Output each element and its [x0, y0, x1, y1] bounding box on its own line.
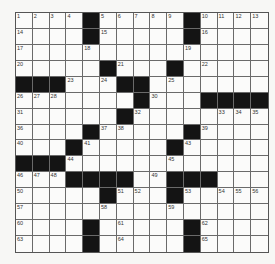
grid-cell[interactable]: [117, 156, 134, 172]
grid-cell[interactable]: [50, 125, 67, 141]
grid-cell[interactable]: [234, 77, 251, 93]
grid-cell[interactable]: [218, 172, 235, 188]
grid-cell[interactable]: 12: [234, 13, 251, 29]
grid-cell[interactable]: 54: [218, 188, 235, 204]
grid-cell[interactable]: [83, 109, 100, 125]
grid-cell[interactable]: 21: [117, 61, 134, 77]
grid-cell[interactable]: [33, 140, 50, 156]
grid-cell[interactable]: [33, 236, 50, 252]
grid-cell[interactable]: 20: [16, 61, 33, 77]
grid-cell[interactable]: [150, 188, 167, 204]
grid-cell[interactable]: [184, 77, 201, 93]
grid-cell[interactable]: [50, 236, 67, 252]
grid-cell[interactable]: 59: [167, 204, 184, 220]
grid-cell[interactable]: [117, 45, 134, 61]
grid-cell[interactable]: 46: [16, 172, 33, 188]
grid-cell[interactable]: [50, 204, 67, 220]
grid-cell[interactable]: [150, 125, 167, 141]
grid-cell[interactable]: [201, 77, 218, 93]
grid-cell[interactable]: [167, 125, 184, 141]
grid-cell[interactable]: 1: [16, 13, 33, 29]
grid-cell[interactable]: [66, 236, 83, 252]
grid-cell[interactable]: 65: [201, 236, 218, 252]
grid-cell[interactable]: [150, 156, 167, 172]
grid-cell[interactable]: 62: [201, 220, 218, 236]
grid-cell[interactable]: [218, 156, 235, 172]
grid-cell[interactable]: 36: [16, 125, 33, 141]
grid-cell[interactable]: [33, 29, 50, 45]
grid-cell[interactable]: 6: [117, 13, 134, 29]
grid-cell[interactable]: [134, 172, 151, 188]
grid-cell[interactable]: [134, 45, 151, 61]
grid-cell[interactable]: 49: [150, 172, 167, 188]
grid-cell[interactable]: [234, 45, 251, 61]
grid-cell[interactable]: [134, 204, 151, 220]
grid-cell[interactable]: [134, 140, 151, 156]
grid-cell[interactable]: [66, 93, 83, 109]
grid-cell[interactable]: [184, 109, 201, 125]
grid-cell[interactable]: 38: [117, 125, 134, 141]
grid-cell[interactable]: 40: [16, 140, 33, 156]
grid-cell[interactable]: 35: [251, 109, 268, 125]
grid-cell[interactable]: 64: [117, 236, 134, 252]
grid-cell[interactable]: [66, 188, 83, 204]
grid-cell[interactable]: [167, 220, 184, 236]
grid-cell[interactable]: [66, 61, 83, 77]
grid-cell[interactable]: 50: [16, 188, 33, 204]
grid-cell[interactable]: [134, 220, 151, 236]
grid-cell[interactable]: [83, 93, 100, 109]
grid-cell[interactable]: 60: [16, 220, 33, 236]
grid-cell[interactable]: 7: [134, 13, 151, 29]
grid-cell[interactable]: 22: [201, 61, 218, 77]
grid-cell[interactable]: 43: [184, 140, 201, 156]
grid-cell[interactable]: [251, 204, 268, 220]
grid-cell[interactable]: [83, 77, 100, 93]
grid-cell[interactable]: [50, 140, 67, 156]
grid-cell[interactable]: 55: [234, 188, 251, 204]
grid-cell[interactable]: [33, 188, 50, 204]
grid-cell[interactable]: [218, 220, 235, 236]
grid-cell[interactable]: [50, 220, 67, 236]
grid-cell[interactable]: 56: [251, 188, 268, 204]
grid-cell[interactable]: [66, 109, 83, 125]
grid-cell[interactable]: 34: [234, 109, 251, 125]
grid-cell[interactable]: [201, 140, 218, 156]
grid-cell[interactable]: 37: [100, 125, 117, 141]
grid-cell[interactable]: [167, 93, 184, 109]
grid-cell[interactable]: 13: [251, 13, 268, 29]
grid-cell[interactable]: [117, 204, 134, 220]
grid-cell[interactable]: [167, 236, 184, 252]
grid-cell[interactable]: [33, 204, 50, 220]
grid-cell[interactable]: [234, 125, 251, 141]
grid-cell[interactable]: [66, 204, 83, 220]
grid-cell[interactable]: 33: [218, 109, 235, 125]
grid-cell[interactable]: 8: [150, 13, 167, 29]
grid-cell[interactable]: [100, 220, 117, 236]
grid-cell[interactable]: 41: [83, 140, 100, 156]
grid-cell[interactable]: 27: [33, 93, 50, 109]
grid-cell[interactable]: [150, 140, 167, 156]
grid-cell[interactable]: 14: [16, 29, 33, 45]
grid-cell[interactable]: [66, 125, 83, 141]
grid-cell[interactable]: 61: [117, 220, 134, 236]
grid-cell[interactable]: [50, 45, 67, 61]
grid-cell[interactable]: [184, 61, 201, 77]
grid-cell[interactable]: [218, 29, 235, 45]
grid-cell[interactable]: [234, 61, 251, 77]
grid-cell[interactable]: 28: [50, 93, 67, 109]
grid-cell[interactable]: [184, 204, 201, 220]
grid-cell[interactable]: [201, 188, 218, 204]
grid-cell[interactable]: [150, 220, 167, 236]
grid-cell[interactable]: 10: [201, 13, 218, 29]
grid-cell[interactable]: [234, 220, 251, 236]
grid-cell[interactable]: [100, 45, 117, 61]
grid-cell[interactable]: [251, 236, 268, 252]
grid-cell[interactable]: [33, 220, 50, 236]
grid-cell[interactable]: [234, 156, 251, 172]
grid-cell[interactable]: [218, 61, 235, 77]
grid-cell[interactable]: [218, 125, 235, 141]
grid-cell[interactable]: [150, 236, 167, 252]
grid-cell[interactable]: 26: [16, 93, 33, 109]
grid-cell[interactable]: 31: [16, 109, 33, 125]
grid-cell[interactable]: 4: [66, 13, 83, 29]
